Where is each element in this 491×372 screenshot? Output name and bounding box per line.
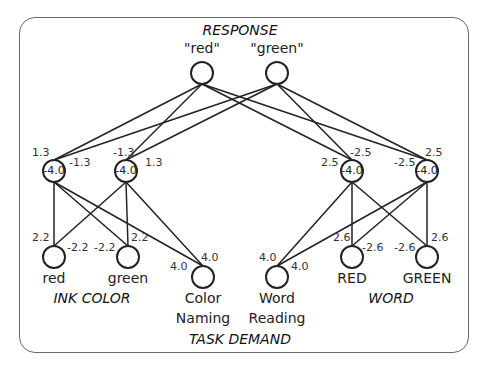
group-label-task-demand: TASK DEMAND xyxy=(189,331,291,347)
weight-h3-top-right: -2.5 xyxy=(350,147,371,159)
hidden-4-bias: -4.0 xyxy=(416,165,437,177)
weight-h4-top-left: -2.5 xyxy=(394,157,415,169)
weight-word-red-right: -2.6 xyxy=(362,242,383,254)
weight-task-color-left: 4.0 xyxy=(170,261,188,273)
task-color-label-line2: Naming xyxy=(176,310,230,327)
task-word-label-line2: Reading xyxy=(249,310,306,327)
weight-word-green-left: -2.6 xyxy=(394,242,415,254)
node-task-word-reading xyxy=(266,266,288,288)
group-label-ink-color: INK COLOR xyxy=(53,290,130,306)
weight-ink-green-left: -2.2 xyxy=(94,242,115,254)
weight-h4-top-right: 2.5 xyxy=(425,147,443,159)
ink-green-label: green xyxy=(108,270,148,287)
hidden-2-bias: -4.0 xyxy=(115,165,136,177)
hidden-1-bias: -4.0 xyxy=(43,165,64,177)
group-label-word: WORD xyxy=(368,290,413,306)
weight-ink-red-right: -2.2 xyxy=(67,242,88,254)
group-label-response: RESPONSE xyxy=(202,22,277,38)
weight-word-green-right: 2.6 xyxy=(431,232,449,244)
edge-resp-red-h3 xyxy=(202,84,352,160)
weight-h3-top-left: 2.5 xyxy=(321,157,339,169)
weight-ink-green-right: 2.2 xyxy=(131,232,149,244)
hidden-3-bias: -4.0 xyxy=(341,165,362,177)
weight-ink-red-left: 2.2 xyxy=(32,232,50,244)
node-task-color-naming xyxy=(192,266,214,288)
edge-resp-green-h2 xyxy=(126,84,277,160)
response-red-label: "red" xyxy=(184,40,220,57)
weight-task-color-right: 4.0 xyxy=(201,252,219,264)
response-green-label: "green" xyxy=(250,40,303,57)
word-green-label: GREEN xyxy=(403,270,452,287)
node-ink-red xyxy=(43,246,65,268)
ink-red-label: red xyxy=(43,270,66,287)
node-response-red xyxy=(191,62,213,84)
word-red-label: RED xyxy=(337,270,366,287)
weight-word-red-left: 2.6 xyxy=(333,232,351,244)
task-color-label-line1: Color xyxy=(185,290,222,307)
task-word-label-line1: Word xyxy=(259,290,295,307)
node-response-green xyxy=(266,62,288,84)
edge-resp-green-h3 xyxy=(277,84,352,160)
node-ink-green xyxy=(117,246,139,268)
network-connections xyxy=(0,0,491,372)
weight-h2-top-left: -1.3 xyxy=(113,147,134,159)
edge-h2-in-green xyxy=(126,182,128,246)
node-word-red xyxy=(341,246,363,268)
weight-task-word-left: 4.0 xyxy=(259,252,277,264)
edge-resp-green-h1 xyxy=(54,84,277,160)
node-word-green xyxy=(416,246,438,268)
weight-h1-top-right: -1.3 xyxy=(69,157,90,169)
weight-h1-top-left: 1.3 xyxy=(32,147,50,159)
weight-h2-top-right: 1.3 xyxy=(145,157,163,169)
weight-task-word-right: 4.0 xyxy=(291,261,309,273)
